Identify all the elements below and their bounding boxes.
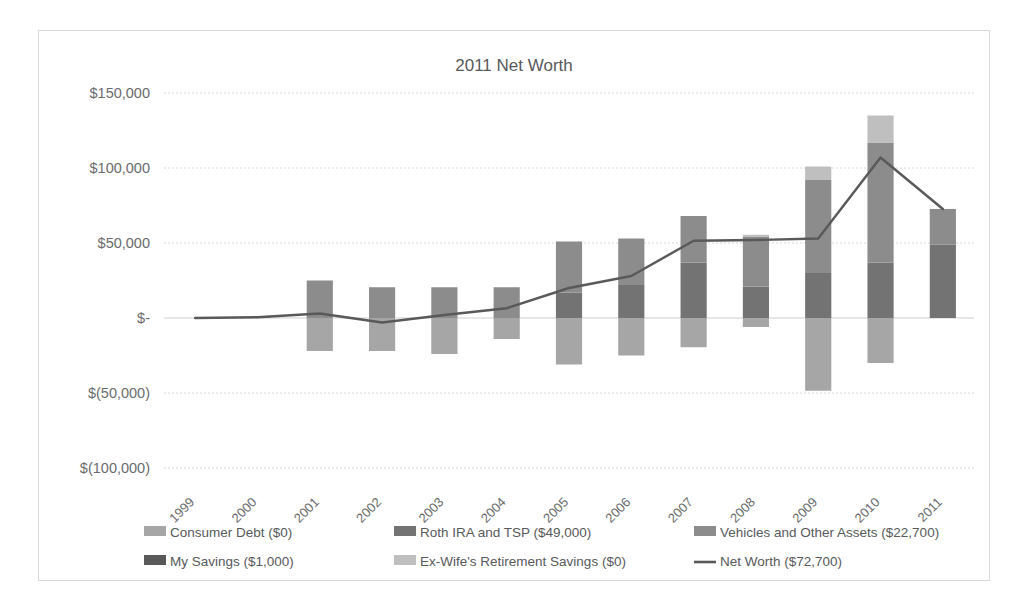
bar-segment bbox=[805, 167, 831, 181]
chart-title: 2011 Net Worth bbox=[455, 56, 573, 75]
bar-segment bbox=[556, 242, 582, 293]
bar-segment bbox=[805, 273, 831, 318]
x-axis-tick-label: 2011 bbox=[915, 495, 945, 525]
y-axis-tick-label: $50,000 bbox=[98, 235, 150, 251]
x-axis-tick-label: 2000 bbox=[229, 495, 260, 526]
bar-segment bbox=[556, 293, 582, 319]
y-axis-labels-group: $150,000$100,000$50,000$-$(50,000)$(100,… bbox=[80, 85, 150, 476]
x-axis-tick-label: 2008 bbox=[727, 495, 758, 526]
y-axis-tick-label: $100,000 bbox=[90, 160, 150, 176]
x-axis-tick-label: 2005 bbox=[540, 495, 571, 526]
bars-group bbox=[244, 116, 956, 391]
bar-segment bbox=[307, 318, 333, 351]
x-axis-tick-label: 2001 bbox=[291, 495, 322, 526]
bar-segment bbox=[743, 235, 769, 237]
legend-item-label: Roth IRA and TSP ($49,000) bbox=[420, 525, 591, 540]
legend-group: Consumer Debt ($0)Roth IRA and TSP ($49,… bbox=[144, 525, 939, 569]
bar-segment bbox=[494, 287, 520, 318]
bar-segment bbox=[867, 318, 893, 363]
legend-item-label: My Savings ($1,000) bbox=[170, 554, 294, 569]
bar-segment bbox=[431, 318, 457, 354]
bar-segment bbox=[867, 116, 893, 143]
y-axis-tick-label: $150,000 bbox=[90, 85, 150, 101]
x-axis-tick-label: 2003 bbox=[415, 495, 446, 526]
legend-swatch bbox=[394, 526, 416, 536]
x-axis-tick-label: 1999 bbox=[166, 495, 197, 526]
legend-swatch bbox=[144, 526, 166, 536]
bar-segment bbox=[930, 245, 956, 319]
legend-item-label: Vehicles and Other Assets ($22,700) bbox=[720, 525, 939, 540]
bar-segment bbox=[930, 209, 956, 245]
legend-item-label: Consumer Debt ($0) bbox=[170, 525, 292, 540]
y-axis-tick-label: $(100,000) bbox=[80, 460, 150, 476]
y-axis-tick-label: $- bbox=[137, 310, 150, 326]
bar-segment bbox=[743, 287, 769, 319]
legend-swatch bbox=[694, 526, 716, 536]
bar-segment bbox=[743, 237, 769, 287]
legend-swatch bbox=[394, 555, 416, 565]
x-axis-tick-label: 2006 bbox=[602, 495, 633, 526]
bar-segment bbox=[556, 318, 582, 365]
bar-segment bbox=[681, 318, 707, 347]
x-axis-tick-label: 2010 bbox=[852, 495, 883, 526]
bar-segment bbox=[681, 216, 707, 263]
y-axis-tick-label: $(50,000) bbox=[88, 385, 150, 401]
legend-item-label: Ex-Wife's Retirement Savings ($0) bbox=[420, 554, 626, 569]
net-worth-chart: $150,000$100,000$50,000$-$(50,000)$(100,… bbox=[39, 31, 989, 580]
bar-segment bbox=[369, 287, 395, 318]
bar-segment bbox=[743, 318, 769, 327]
x-axis-tick-label: 2002 bbox=[353, 495, 384, 526]
chart-container: $150,000$100,000$50,000$-$(50,000)$(100,… bbox=[38, 30, 990, 581]
legend-item-label: Net Worth ($72,700) bbox=[720, 554, 842, 569]
bar-segment bbox=[805, 318, 831, 391]
bar-segment bbox=[867, 143, 893, 263]
bar-segment bbox=[494, 318, 520, 339]
x-axis-tick-label: 2004 bbox=[478, 495, 509, 526]
x-axis-tick-label: 2009 bbox=[789, 495, 820, 526]
bar-segment bbox=[681, 263, 707, 319]
bar-segment bbox=[867, 263, 893, 319]
bar-segment bbox=[618, 285, 644, 318]
bar-segment bbox=[618, 318, 644, 356]
legend-swatch bbox=[144, 555, 166, 565]
x-axis-labels-group: 1999200020012002200320042005200620072008… bbox=[166, 495, 945, 526]
x-axis-tick-label: 2007 bbox=[665, 495, 696, 526]
